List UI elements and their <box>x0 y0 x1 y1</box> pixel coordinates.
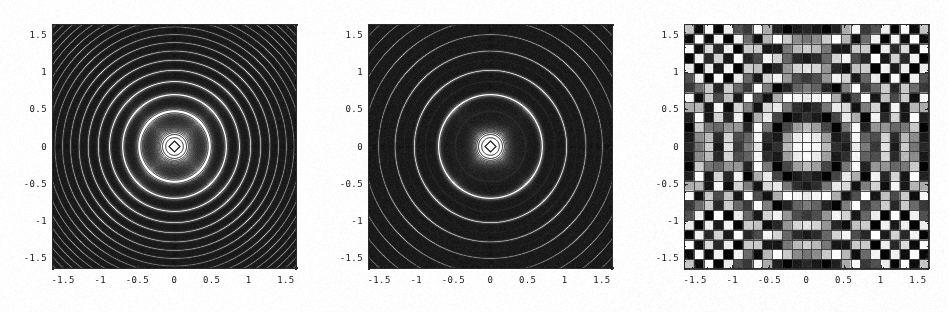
y-tick-label: 0 <box>673 142 679 151</box>
y-tick-label: -0.5 <box>24 179 47 188</box>
y-tick-label: -1.5 <box>656 253 679 262</box>
x-tick-label: 1.5 <box>593 276 610 285</box>
x-tick-label: 0 <box>804 276 810 285</box>
y-tick-label: -1.5 <box>24 253 47 262</box>
y-tick-label: 1 <box>41 68 47 77</box>
x-tick-label: -1 <box>726 276 738 285</box>
y-tick-label: 0 <box>41 142 47 151</box>
contour-plot-canvas <box>0 0 316 312</box>
figure-row: -1.5-1-0.500.511.51.510.50-0.5-1-1.5 -1.… <box>0 0 949 312</box>
y-tick-label: -1 <box>35 216 47 225</box>
x-tick-label: -0.5 <box>442 276 465 285</box>
y-tick-label: -0.5 <box>340 179 363 188</box>
x-tick-label: 0.5 <box>203 276 220 285</box>
panel-shaded-contour-plot: -1.5-1-0.500.511.51.510.50-0.5-1-1.5 <box>316 0 632 312</box>
x-tick-label: 0 <box>172 276 178 285</box>
panel-density-plot: -1.5-1-0.500.511.51.510.50-0.5-1-1.5 <box>632 0 948 312</box>
panel-contour-plot: -1.5-1-0.500.511.51.510.50-0.5-1-1.5 <box>0 0 316 312</box>
y-tick-label: 1.5 <box>346 31 363 40</box>
y-tick-label: 0.5 <box>346 105 363 114</box>
x-tick-label: 1.5 <box>277 276 294 285</box>
y-tick-label: -1.5 <box>340 253 363 262</box>
x-tick-label: 0.5 <box>519 276 536 285</box>
y-tick-label: -1 <box>351 216 363 225</box>
shaded-contour-plot-canvas <box>316 0 632 312</box>
x-tick-label: 1 <box>878 276 884 285</box>
x-tick-label: 1 <box>562 276 568 285</box>
x-tick-label: -1 <box>94 276 106 285</box>
y-tick-label: 0.5 <box>662 105 679 114</box>
x-tick-label: -1.5 <box>367 276 390 285</box>
x-tick-label: 0.5 <box>835 276 852 285</box>
x-tick-label: -0.5 <box>758 276 781 285</box>
y-tick-label: 0.5 <box>30 105 47 114</box>
y-tick-label: -0.5 <box>656 179 679 188</box>
y-tick-label: 0 <box>357 142 363 151</box>
x-tick-label: -1.5 <box>683 276 706 285</box>
density-plot-canvas <box>632 0 948 312</box>
x-tick-label: -1 <box>410 276 422 285</box>
y-tick-label: 1 <box>357 68 363 77</box>
x-tick-label: 1.5 <box>909 276 926 285</box>
x-tick-label: -1.5 <box>51 276 74 285</box>
x-tick-label: 1 <box>246 276 252 285</box>
x-tick-label: -0.5 <box>126 276 149 285</box>
y-tick-label: 1.5 <box>662 31 679 40</box>
y-tick-label: 1 <box>673 68 679 77</box>
x-tick-label: 0 <box>488 276 494 285</box>
y-tick-label: -1 <box>667 216 679 225</box>
y-tick-label: 1.5 <box>30 31 47 40</box>
